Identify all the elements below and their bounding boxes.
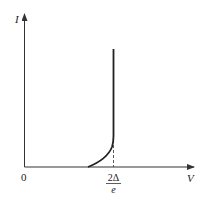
y-axis-label: I (14, 13, 20, 25)
threshold-label: 2Δ e (106, 172, 121, 195)
iv-curve (88, 49, 114, 167)
x-axis-label: V (187, 172, 195, 184)
threshold-denominator: e (111, 184, 116, 195)
origin-label: 0 (21, 171, 27, 183)
iv-diagram: I 0 V 2Δ e (0, 0, 206, 202)
threshold-numerator: 2Δ (108, 172, 120, 183)
